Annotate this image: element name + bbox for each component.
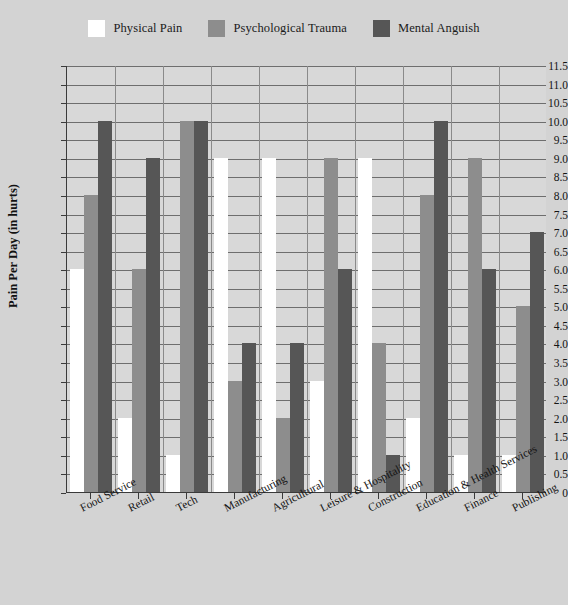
bar[interactable]	[482, 269, 496, 492]
legend-swatch-icon-1	[208, 20, 225, 37]
x-axis-label: Tech	[174, 493, 199, 514]
vertical-gridline	[403, 66, 404, 492]
bar-group	[118, 66, 161, 492]
y-axis-title: Pain Per Day (in hurts)	[2, 0, 24, 493]
bar-group	[262, 66, 305, 492]
bar[interactable]	[70, 269, 84, 492]
bar-group	[70, 66, 113, 492]
bar[interactable]	[228, 381, 242, 492]
vertical-gridline	[163, 66, 164, 492]
x-axis-label: Retail	[126, 491, 156, 514]
legend-entry-1[interactable]: Psychological Trauma	[208, 20, 346, 37]
bar[interactable]	[310, 381, 324, 492]
bar-group	[502, 66, 545, 492]
vertical-gridline	[499, 66, 500, 492]
bar[interactable]	[84, 195, 98, 492]
legend-label-1: Psychological Trauma	[233, 21, 346, 36]
bar[interactable]	[166, 455, 180, 492]
bar-group	[214, 66, 257, 492]
bar[interactable]	[262, 158, 276, 492]
bar[interactable]	[194, 121, 208, 492]
plot-area	[66, 66, 546, 493]
bar[interactable]	[420, 195, 434, 492]
legend-swatch-icon-2	[373, 20, 390, 37]
vertical-gridline	[451, 66, 452, 492]
bar-group	[406, 66, 449, 492]
bar[interactable]	[214, 158, 228, 492]
bar[interactable]	[132, 269, 146, 492]
vertical-gridline	[355, 66, 356, 492]
bar[interactable]	[146, 158, 160, 492]
vertical-gridline	[259, 66, 260, 492]
y-tick-mark	[61, 493, 66, 494]
bar[interactable]	[180, 121, 194, 492]
bar[interactable]	[98, 121, 112, 492]
bar[interactable]	[290, 343, 304, 492]
vertical-gridline	[211, 66, 212, 492]
bar-group	[454, 66, 497, 492]
legend-entry-0[interactable]: Physical Pain	[88, 20, 182, 37]
legend-entry-2[interactable]: Mental Anguish	[373, 20, 480, 37]
bar[interactable]	[434, 121, 448, 492]
y-axis-title-text: Pain Per Day (in hurts)	[6, 184, 21, 308]
bar-group	[358, 66, 401, 492]
legend-label-0: Physical Pain	[113, 21, 182, 36]
bar[interactable]	[242, 343, 256, 492]
plot-area-wrapper	[66, 66, 546, 493]
bar[interactable]	[358, 158, 372, 492]
vertical-gridline	[115, 66, 116, 492]
chart-legend: Physical PainPsychological TraumaMental …	[0, 20, 568, 37]
bar-group	[166, 66, 209, 492]
vertical-gridline	[307, 66, 308, 492]
bar[interactable]	[468, 158, 482, 492]
bar-group	[310, 66, 353, 492]
legend-label-2: Mental Anguish	[398, 21, 480, 36]
legend-swatch-icon-0	[88, 20, 105, 37]
bar[interactable]	[324, 158, 338, 492]
bar[interactable]	[516, 306, 530, 492]
bar[interactable]	[338, 269, 352, 492]
